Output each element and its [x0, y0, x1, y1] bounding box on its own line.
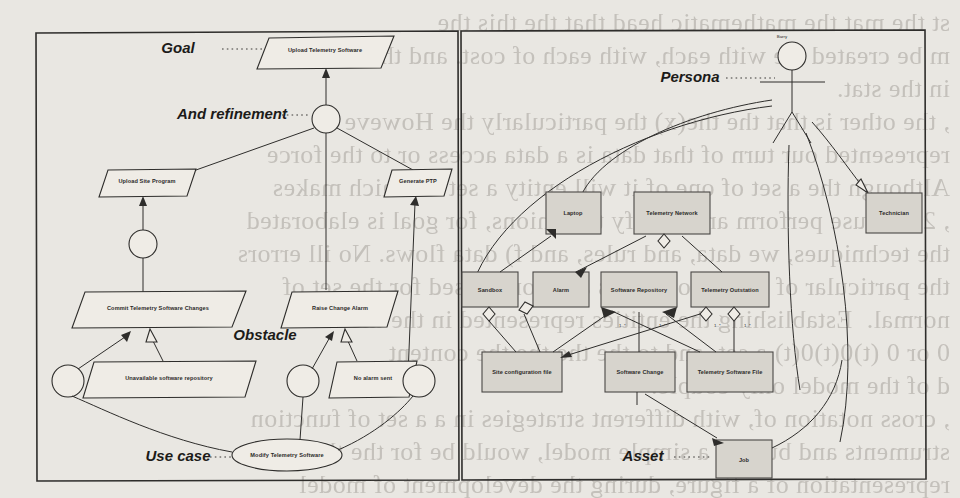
goal-label-upload-site-program: Upload Site Program: [118, 178, 175, 184]
refinement-node-middle-bottom[interactable]: [287, 365, 319, 397]
asset-node-laptop[interactable]: Laptop: [546, 192, 601, 234]
goal-node-generate-ptp[interactable]: Generate PTP: [384, 169, 452, 197]
edge-into-generate-ptp: [408, 196, 419, 375]
refinement-node-site-program[interactable]: [129, 230, 157, 258]
use-case-label-modify-telemetry-software: Modify Telemetry Software: [250, 452, 323, 458]
asset-node-sandbox[interactable]: Sandbox: [462, 272, 518, 307]
annotation-use-case: Use case: [145, 447, 210, 464]
right-panel-frame: [461, 30, 926, 480]
asset-label-sandbox: Sandbox: [478, 287, 503, 293]
multiplicity-label-4: 1..*: [744, 323, 751, 328]
use-case-link-right: [338, 396, 413, 450]
asset-label-job: Job: [739, 457, 750, 463]
obstacle-label-no-alarm-sent: No alarm sent: [354, 375, 392, 381]
multiplicity-label-2: 1..*: [659, 323, 666, 328]
goal-label-commit-telemetry-software-changes: Commit Telemetry Software Changes: [107, 305, 209, 311]
edge-telemetry-software-file-to-repo: [612, 311, 700, 352]
edge-site-config-to-software-repo: [553, 311, 612, 352]
asset-label-laptop: Laptop: [563, 210, 583, 216]
asset-node-telemetry-software-file[interactable]: Telemetry Software File: [687, 352, 773, 392]
and-refinement-node[interactable]: [312, 105, 340, 133]
annotation-goal: Goal: [161, 39, 195, 56]
persona-edge-to-job-right: [806, 133, 848, 442]
aggregation-diamond-outstation: [700, 307, 712, 321]
figure-canvas: Goal Upload Telemetry Software And refin…: [0, 0, 960, 498]
use-case-link-middle: [300, 397, 303, 440]
multiplicity-label-1: 1..*: [619, 323, 626, 328]
edge-laptop-sandbox: [500, 236, 551, 272]
goal-node-raise-change-alarm[interactable]: Raise Change Alarm: [281, 291, 398, 328]
asset-node-site-configuration-file[interactable]: Site configuration file: [482, 352, 562, 392]
refinement-leg-left: [196, 128, 314, 170]
obstruction-edge-no-alarm-sent: [341, 329, 357, 361]
asset-label-alarm: Alarm: [553, 287, 569, 293]
edge-software-change-to-job: [645, 394, 724, 446]
edge-alarm-site-config: [524, 314, 540, 352]
persona-edge-to-technician: [812, 122, 868, 193]
asset-label-telemetry-outstation: Telemetry Outstation: [701, 287, 759, 293]
asset-label-telemetry-network: Telemetry Network: [646, 210, 698, 216]
edge-outstation-to-site-config: [560, 314, 700, 358]
asset-label-software-repository: Software Repository: [611, 287, 668, 293]
annotation-asset: Asset: [622, 447, 665, 464]
goal-label-upload-telemetry-software: Upload Telemetry Software: [288, 47, 362, 53]
goal-label-generate-ptp: Generate PTP: [399, 178, 437, 184]
asset-node-telemetry-network[interactable]: Telemetry Network: [634, 192, 710, 234]
asset-label-technician: Technician: [879, 210, 909, 216]
persona-name-label: Barry: [777, 34, 788, 39]
persona-stick-figure-barry[interactable]: [760, 42, 825, 143]
asset-label-telemetry-software-file: Telemetry Software File: [698, 369, 763, 375]
annotation-and-refinement: And refinement: [176, 105, 288, 122]
asset-label-site-configuration-file: Site configuration file: [492, 369, 551, 375]
multiplicity-label-3: 1..*: [714, 323, 721, 328]
annotation-persona: Persona: [660, 68, 719, 85]
asset-label-software-change: Software Change: [616, 369, 663, 375]
refinement-leg-right: [337, 128, 413, 170]
obstacle-label-unavailable-software-repository: Unavailable software repository: [125, 375, 213, 381]
obstacle-node-unavailable-software-repository[interactable]: Unavailable software repository: [83, 361, 256, 398]
edge-job-to-persona-curve: [772, 360, 842, 448]
goal-label-raise-change-alarm: Raise Change Alarm: [312, 305, 368, 311]
persona-edge-to-job-left: [788, 145, 800, 390]
use-case-link-left: [72, 396, 232, 452]
aggregation-diamond-telemetry-network: [658, 234, 670, 248]
goal-node-upload-site-program[interactable]: Upload Site Program: [99, 169, 196, 197]
refinement-node-left-bottom[interactable]: [52, 365, 84, 397]
asset-node-software-repository[interactable]: Software Repository: [601, 272, 677, 307]
refinement-node-right-bottom[interactable]: [403, 365, 435, 397]
asset-node-telemetry-outstation[interactable]: Telemetry Outstation: [691, 272, 769, 307]
persona-edge-to-sandbox: [468, 106, 772, 300]
use-case-node-modify-telemetry-software[interactable]: Modify Telemetry Software: [232, 439, 342, 471]
edge-sandbox-site-config: [489, 321, 516, 352]
edge-telemetry-network-outstation: [682, 236, 722, 272]
edge-middle-bottom-to-raise-alarm: [312, 331, 334, 369]
composition-diamond-software-repo-left: [601, 307, 616, 318]
refinement-edge-to-top-goal: [322, 68, 330, 105]
aggregation-diamond-sandbox: [483, 307, 495, 321]
asset-node-technician[interactable]: Technician: [866, 193, 922, 233]
edge-software-repo-to-telemetry-file: [666, 314, 716, 352]
asset-node-job[interactable]: Job: [716, 440, 772, 478]
obstruction-edge-unavailable-repo: [146, 329, 163, 361]
goal-node-commit-telemetry-software-changes[interactable]: Commit Telemetry Software Changes: [72, 291, 246, 328]
goal-node-upload-telemetry-software[interactable]: Upload Telemetry Software: [257, 36, 394, 69]
edge-into-upload-site-program: [139, 196, 147, 230]
aggregation-diamond-outstation-right: [728, 307, 740, 321]
annotation-obstacle: Obstacle: [233, 326, 296, 343]
aggregation-diamond-alarm: [519, 302, 533, 314]
asset-node-software-change[interactable]: Software Change: [605, 352, 675, 392]
persona-edge-to-laptop: [580, 100, 772, 198]
